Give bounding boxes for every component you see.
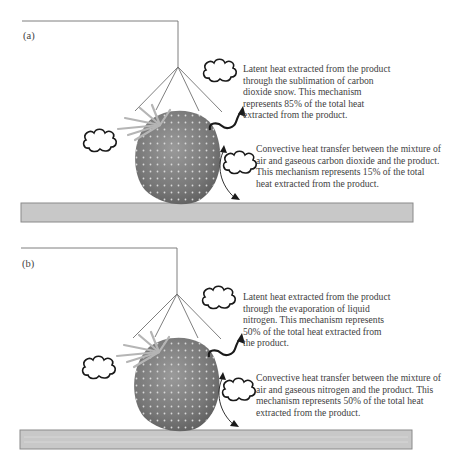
latent-heat-description: Latent heat extracted from the product t… [243, 291, 390, 349]
panel-a: (a) Latent heat extracted from the produ… [0, 0, 458, 232]
vapor-cloud-icon [224, 151, 257, 173]
tray [20, 430, 412, 449]
text-line: This mechanism represents 15% of the tot… [256, 166, 441, 178]
vapor-cloud-icon [203, 286, 236, 308]
latent-heat-description: Latent heat extracted from the product t… [243, 63, 390, 121]
text-line: heat extracted from the product. [256, 178, 441, 190]
spray-nozzle-icon [22, 21, 222, 112]
text-line: 50% of the total heat extracted from [243, 326, 390, 338]
strawberry-icon [117, 332, 219, 431]
heat-flow-arrow-icon [210, 106, 246, 130]
panel-label: (a) [23, 30, 35, 41]
text-line: Convective heat transfer between the mix… [256, 372, 441, 384]
strawberry-icon [118, 105, 220, 204]
panel-label: (b) [22, 258, 34, 269]
text-line: mechanism represents 50% of the total he… [256, 395, 441, 407]
text-line: extracted from the product. [256, 407, 441, 419]
convective-heat-description: Convective heat transfer between the mix… [256, 143, 441, 189]
vapor-cloud-icon [84, 129, 117, 151]
heat-flow-arrow-icon [209, 333, 245, 357]
text-line: Latent heat extracted from the product [243, 63, 390, 75]
text-line: nitrogen. This mechanism represents [243, 314, 390, 326]
text-line: through the sublimation of carbon [243, 75, 390, 87]
text-line: Convective heat transfer between the mix… [256, 143, 441, 155]
text-line: through the evaporation of liquid [243, 303, 390, 315]
text-line: dioxide snow. This mechanism [243, 86, 390, 98]
text-line: Latent heat extracted from the product [243, 291, 390, 303]
vapor-cloud-icon [83, 356, 116, 378]
tray [21, 203, 413, 222]
text-line: represents 85% of the total heat [243, 98, 390, 110]
text-line: the product. [243, 337, 390, 349]
vapor-cloud-icon [204, 59, 237, 81]
spray-nozzle-icon [21, 248, 221, 339]
vapor-cloud-icon [223, 378, 256, 400]
text-line: extracted from the product. [243, 109, 390, 121]
text-line: air and gaseous carbon dioxide and the p… [256, 155, 441, 167]
panel-b: (b) Latent heat extracted from the produ… [0, 228, 458, 460]
convective-heat-description: Convective heat transfer between the mix… [256, 372, 441, 418]
text-line: air and gaseous nitrogen and the product… [256, 384, 441, 396]
